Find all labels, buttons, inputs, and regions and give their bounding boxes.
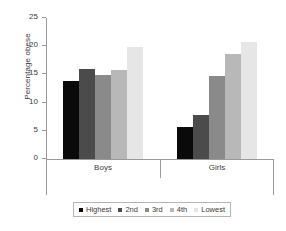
legend-swatch-icon [170,208,174,212]
plot-area [46,18,274,159]
bar [193,115,209,159]
bar [209,76,225,159]
legend-swatch-icon [145,208,149,212]
y-axis-tick-label: 10 [14,97,38,106]
category-label-girls: Girls [177,163,257,172]
legend-swatch-icon [194,208,198,212]
bar-chart: Percentage obese 0510152025 BoysGirls Hi… [0,0,286,231]
bar [225,54,241,159]
y-axis-tick-label: 25 [14,12,38,21]
category-axis-separator [160,159,161,178]
legend-swatch-icon [79,208,83,212]
y-axis-tick-label: 0 [14,153,38,162]
bar [241,42,257,159]
y-axis-tick-label: 15 [14,68,38,77]
category-axis: BoysGirls [46,159,274,195]
category-label-boys: Boys [63,163,143,172]
legend-label: 2nd [125,206,138,214]
bar [111,70,127,159]
bar [63,81,79,159]
legend-swatch-icon [118,208,122,212]
legend-label: Lowest [201,206,225,214]
bar [177,127,193,159]
legend-item-2nd[interactable]: 2nd [118,206,138,214]
category-axis-left-edge [46,159,47,195]
bar [127,47,143,159]
legend-item-lowest[interactable]: Lowest [194,206,225,214]
legend-item-3rd[interactable]: 3rd [145,206,163,214]
legend-item-4th[interactable]: 4th [170,206,187,214]
legend-label: Highest [86,206,111,214]
category-axis-right-edge [273,159,274,195]
y-axis-title: Percentage obese [23,7,32,127]
bar [95,75,111,159]
y-axis-tick-label: 20 [14,40,38,49]
legend-item-highest[interactable]: Highest [79,206,111,214]
bar [79,69,95,159]
legend-label: 3rd [152,206,163,214]
legend: Highest2nd3rd4thLowest [73,202,231,217]
legend-label: 4th [177,206,187,214]
y-axis-tick-label: 5 [14,125,38,134]
